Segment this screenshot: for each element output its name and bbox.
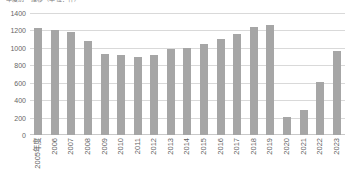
y-axis-tick-label: 0: [22, 132, 26, 139]
y-axis-tick-label: 1000: [10, 44, 26, 51]
x-axis-tick-label: 2005年度: [34, 138, 42, 169]
bar-chart: 年度別 推移（単位：件） 1400120010008006004002000 2…: [0, 0, 350, 188]
x-axis-slot: 2014: [179, 137, 196, 188]
bar: [233, 34, 241, 135]
x-axis-tick-label: 2021: [300, 138, 308, 155]
bar-slot: [196, 13, 213, 135]
bar-slot: [295, 13, 312, 135]
x-axis-tick-label: 2012: [150, 138, 158, 155]
x-axis-slot: 2019: [262, 137, 279, 188]
bar: [101, 54, 109, 135]
x-axis-tick-label: 2011: [134, 138, 142, 154]
bar-slot: [163, 13, 180, 135]
x-axis: 2005年度2006200720082009201020112012201320…: [30, 137, 345, 188]
bar-slot: [47, 13, 64, 135]
bar: [200, 44, 208, 135]
x-axis-slot: 2008: [80, 137, 97, 188]
x-axis-tick-label: 2013: [167, 138, 175, 155]
bar: [67, 32, 75, 135]
x-axis-tick-label: 2010: [117, 138, 125, 155]
bar: [283, 117, 291, 135]
bar: [266, 25, 274, 135]
bar-slot: [113, 13, 130, 135]
x-axis-tick-label: 2008: [84, 138, 92, 155]
x-axis-tick-label: 2017: [233, 138, 241, 155]
x-axis-slot: 2015: [196, 137, 213, 188]
x-axis-tick-label: 2020: [283, 138, 291, 155]
bar: [134, 57, 142, 135]
plot-area: [30, 13, 345, 135]
bar-slot: [328, 13, 345, 135]
bar: [250, 27, 258, 135]
x-axis-slot: 2023: [328, 137, 345, 188]
bar-slot: [63, 13, 80, 135]
bar-slot: [229, 13, 246, 135]
bar: [150, 55, 158, 135]
chart-title: 年度別 推移（単位：件）: [6, 0, 206, 4]
y-axis-tick-label: 800: [14, 62, 26, 69]
bar-slot: [129, 13, 146, 135]
bar: [84, 41, 92, 135]
x-axis-slot: 2010: [113, 137, 130, 188]
x-axis-slot: 2005年度: [30, 137, 47, 188]
bar: [167, 49, 175, 135]
bar-series: [30, 13, 345, 135]
bar-slot: [262, 13, 279, 135]
bar: [333, 51, 341, 135]
x-axis-slot: 2006: [47, 137, 64, 188]
bar-slot: [279, 13, 296, 135]
bar: [300, 110, 308, 135]
x-axis-slot: 2011: [129, 137, 146, 188]
x-axis-slot: 2013: [163, 137, 180, 188]
y-axis: 1400120010008006004002000: [0, 0, 30, 188]
bar: [34, 28, 42, 135]
bar-slot: [246, 13, 263, 135]
y-axis-tick-label: 400: [14, 97, 26, 104]
bar-slot: [312, 13, 329, 135]
x-axis-tick-label: 2007: [67, 138, 75, 155]
x-axis-tick-label: 2009: [101, 138, 109, 155]
bar-slot: [179, 13, 196, 135]
bar-slot: [96, 13, 113, 135]
bar: [217, 39, 225, 135]
bar-slot: [212, 13, 229, 135]
x-axis-slot: 2007: [63, 137, 80, 188]
x-axis-slot: 2012: [146, 137, 163, 188]
x-axis-tick-label: 2019: [266, 138, 274, 155]
x-axis-slot: 2020: [279, 137, 296, 188]
bar-slot: [30, 13, 47, 135]
y-axis-tick-label: 600: [14, 79, 26, 86]
x-axis-slot: 2016: [212, 137, 229, 188]
bar-slot: [146, 13, 163, 135]
x-axis-tick-label: 2018: [250, 138, 258, 155]
x-axis-tick-label: 2014: [183, 138, 191, 155]
bar: [51, 30, 59, 135]
x-axis-tick-label: 2022: [316, 138, 324, 155]
bar: [316, 82, 324, 135]
x-axis-slot: 2018: [246, 137, 263, 188]
bar: [183, 48, 191, 135]
y-axis-tick-label: 200: [14, 114, 26, 121]
x-axis-slot: 2021: [295, 137, 312, 188]
x-axis-tick-label: 2015: [200, 138, 208, 155]
x-axis-slot: 2009: [96, 137, 113, 188]
x-axis-slot: 2017: [229, 137, 246, 188]
bar-slot: [80, 13, 97, 135]
x-axis-tick-label: 2006: [51, 138, 59, 155]
bar: [117, 55, 125, 135]
x-axis-tick-label: 2016: [217, 138, 225, 155]
y-axis-tick-label: 1400: [10, 10, 26, 17]
x-axis-slot: 2022: [312, 137, 329, 188]
y-axis-tick-label: 1200: [10, 27, 26, 34]
x-axis-tick-label: 2023: [333, 138, 341, 155]
